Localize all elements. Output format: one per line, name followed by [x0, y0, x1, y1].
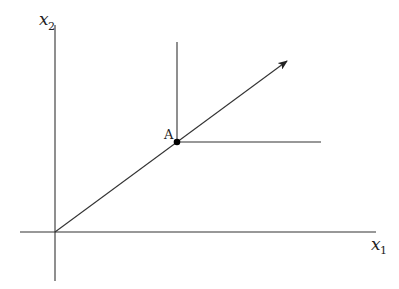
x2-axis-subscript: 2 — [48, 20, 55, 33]
point-a — [174, 139, 181, 146]
x1-axis-subscript: 1 — [380, 244, 387, 257]
diagram-svg: A x 2 x 1 — [0, 0, 399, 289]
point-a-label: A — [163, 127, 174, 142]
diagram-canvas: A x 2 x 1 — [0, 0, 399, 289]
ray-through-a — [55, 61, 287, 232]
